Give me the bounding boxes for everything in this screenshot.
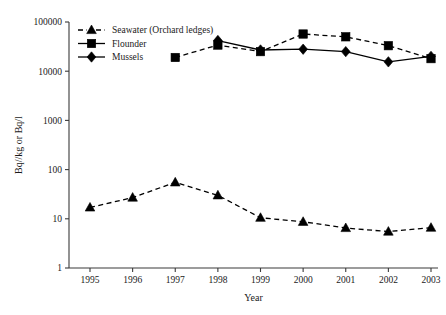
data-point-marker <box>384 57 393 67</box>
data-point-marker <box>299 44 308 54</box>
y-tick-label: 10000 <box>38 67 62 77</box>
data-point-marker <box>341 46 350 56</box>
data-point-marker <box>384 41 392 49</box>
chart-legend: Seawater (Orchard ledges)FlounderMussels <box>78 25 213 62</box>
series-path <box>90 182 431 231</box>
legend-entry: Flounder <box>78 39 147 49</box>
data-point-marker <box>256 213 266 222</box>
y-tick-label: 100000 <box>34 17 63 27</box>
data-point-marker <box>299 30 307 38</box>
x-tick-label: 1997 <box>166 275 185 285</box>
series-path <box>218 41 431 62</box>
legend-label: Flounder <box>112 39 147 49</box>
series-3 <box>213 35 435 67</box>
x-tick-label: 1999 <box>251 275 270 285</box>
chart-figure: 1101001000100001000001995199619971998199… <box>0 0 446 315</box>
series-1 <box>85 177 436 235</box>
x-tick-label: 2001 <box>336 275 355 285</box>
legend-entry: Mussels <box>78 52 143 63</box>
y-tick-label: 1 <box>57 263 62 273</box>
x-tick-label: 2002 <box>379 275 398 285</box>
x-tick-label: 1998 <box>208 275 227 285</box>
x-axis-title: Year <box>244 292 263 303</box>
y-tick-label: 1000 <box>43 116 62 126</box>
data-point-marker <box>426 223 436 232</box>
legend-label: Seawater (Orchard ledges) <box>112 25 213 36</box>
x-tick-label: 2003 <box>422 275 441 285</box>
y-axis-title: Bq//kg or Bq/l <box>13 116 24 174</box>
legend-marker <box>87 52 96 62</box>
x-tick-label: 1996 <box>123 275 142 285</box>
y-tick-label: 100 <box>48 165 63 175</box>
data-point-marker <box>171 53 179 61</box>
x-tick-label: 2000 <box>294 275 313 285</box>
data-point-marker <box>342 33 350 41</box>
data-point-marker <box>170 177 180 186</box>
chart-canvas: 1101001000100001000001995199619971998199… <box>0 0 446 315</box>
y-tick-label: 10 <box>53 214 63 224</box>
legend-label: Mussels <box>112 52 143 62</box>
legend-marker <box>87 25 97 34</box>
legend-entry: Seawater (Orchard ledges) <box>78 25 213 36</box>
legend-marker <box>87 39 95 47</box>
x-tick-label: 1995 <box>81 275 100 285</box>
